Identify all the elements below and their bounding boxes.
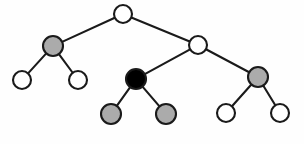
tree-node-n0-white [114, 5, 132, 23]
tree-node-n10-white [271, 104, 289, 122]
tree-node-n7-gray [101, 104, 121, 124]
tree-edge-n6-n9 [232, 84, 251, 106]
tree-edge-n6-n10 [263, 86, 275, 106]
tree-node-n5-black [126, 69, 146, 89]
tree-edge-n0-n1 [62, 18, 115, 42]
tree-node-n4-white [69, 71, 87, 89]
edge-layer [28, 17, 275, 106]
binary-tree-figure [0, 0, 304, 144]
tree-node-n1-gray [43, 36, 63, 56]
tree-node-n2-white [189, 36, 207, 54]
tree-edge-n2-n6 [206, 49, 249, 72]
node-layer [13, 5, 289, 124]
tree-canvas [0, 0, 304, 144]
tree-node-n6-gray [248, 67, 268, 87]
tree-edge-n1-n3 [28, 53, 46, 73]
tree-edge-n1-n4 [59, 54, 73, 73]
tree-edge-n0-n2 [131, 17, 189, 41]
tree-edge-n5-n8 [143, 87, 160, 107]
tree-edge-n2-n5 [145, 49, 190, 74]
tree-node-n8-gray [156, 104, 176, 124]
tree-node-n9-white [217, 104, 235, 122]
tree-node-n3-white [13, 71, 31, 89]
tree-edge-n5-n7 [117, 87, 130, 106]
